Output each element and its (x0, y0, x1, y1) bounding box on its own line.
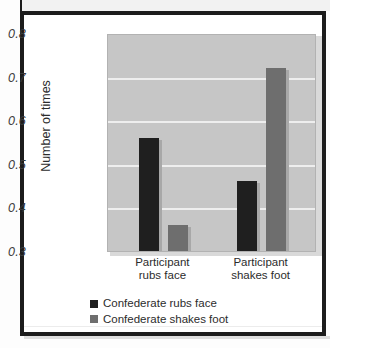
chart-legend: Confederate rubs faceConfederate shakes … (90, 296, 228, 327)
x-axis-category-label: Participantshakes foot (201, 256, 321, 282)
x-axis-category-line: Participant (201, 256, 321, 269)
y-axis-tick-label: 0.8 (0, 28, 26, 41)
y-axis-tick-label: 0.3 (0, 246, 26, 259)
y-axis-tick-label: 0.4 (0, 202, 26, 215)
legend-swatch-icon (90, 315, 98, 323)
figure-drop-shadow (24, 336, 330, 339)
y-axis-tick-label: 0.5 (0, 159, 26, 172)
page-right-margin (330, 0, 376, 348)
legend-item[interactable]: Confederate rubs face (90, 296, 228, 312)
legend-item-label: Confederate shakes foot (103, 312, 228, 328)
y-axis-tick-label: 0.6 (0, 115, 26, 128)
legend-item-label: Confederate rubs face (103, 296, 217, 312)
bar-chart: Number of times 0.30.40.50.60.70.8 Confe… (24, 15, 322, 332)
y-axis-tick-label: 0.7 (0, 71, 26, 84)
x-axis-category-line: shakes foot (201, 269, 321, 282)
figure-root: Number of times 0.30.40.50.60.70.8 Confe… (0, 0, 376, 348)
y-axis-title: Number of times (39, 56, 53, 196)
legend-swatch-icon (90, 300, 98, 308)
y-axis: Number of times 0.30.40.50.60.70.8 (24, 15, 322, 332)
page-top-strip (20, 0, 368, 11)
legend-item[interactable]: Confederate shakes foot (90, 312, 228, 328)
figure-frame: Number of times 0.30.40.50.60.70.8 Confe… (20, 11, 326, 336)
